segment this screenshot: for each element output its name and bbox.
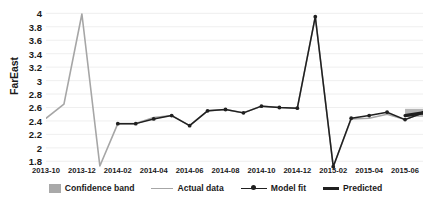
y-axis-title: FarEast bbox=[8, 41, 20, 111]
x-axis-tick: 2015-06 bbox=[391, 166, 419, 175]
chart-legend: Confidence band Actual data Model fit Pr… bbox=[0, 183, 431, 193]
data-point-marker bbox=[313, 15, 317, 19]
legend-item-predicted[interactable]: Predicted bbox=[323, 183, 382, 193]
data-point-marker bbox=[188, 124, 192, 128]
plot-area bbox=[46, 10, 423, 168]
y-axis-tick: 2 bbox=[37, 142, 42, 153]
x-axis-tick: 2014-04 bbox=[140, 166, 168, 175]
legend-item-model-fit[interactable]: Model fit bbox=[241, 183, 306, 193]
predicted-line-icon bbox=[323, 187, 339, 190]
y-axis-tick: 3.8 bbox=[29, 21, 42, 32]
model-fit-line-marker-icon bbox=[241, 184, 267, 193]
data-point-marker bbox=[349, 116, 353, 120]
x-axis-tick: 2013-12 bbox=[68, 166, 96, 175]
confidence-band-swatch-icon bbox=[49, 184, 61, 193]
y-axis-tick: 4 bbox=[37, 8, 42, 19]
y-axis-tick: 2.4 bbox=[29, 115, 42, 126]
legend-item-actual-data[interactable]: Actual data bbox=[151, 183, 223, 193]
x-axis-tick: 2014-10 bbox=[247, 166, 275, 175]
legend-label: Predicted bbox=[343, 183, 382, 193]
data-point-marker bbox=[224, 108, 228, 112]
gridlines bbox=[46, 13, 423, 161]
x-axis-tick: 2014-12 bbox=[283, 166, 311, 175]
actual-data-line-icon bbox=[151, 188, 173, 189]
series-line-actual-data bbox=[46, 14, 423, 167]
data-point-marker bbox=[260, 104, 264, 108]
x-axis-tick: 2015-02 bbox=[319, 166, 347, 175]
data-point-marker bbox=[152, 117, 156, 121]
series-line-model-fit bbox=[118, 17, 423, 167]
legend-label: Actual data bbox=[177, 183, 223, 193]
data-point-marker bbox=[295, 106, 299, 110]
data-point-marker bbox=[403, 118, 407, 122]
x-axis-tick: 2014-08 bbox=[212, 166, 240, 175]
y-axis-tick: 3 bbox=[37, 75, 42, 86]
y-axis-tick: 2.2 bbox=[29, 129, 42, 140]
data-point-marker bbox=[206, 109, 210, 113]
x-axis-tick: 2014-02 bbox=[104, 166, 132, 175]
data-point-marker bbox=[385, 110, 389, 114]
y-axis-tick: 2.8 bbox=[29, 89, 42, 100]
x-axis-tick: 2013-10 bbox=[32, 166, 60, 175]
legend-label: Model fit bbox=[271, 183, 306, 193]
data-point-marker bbox=[277, 106, 281, 110]
data-point-marker bbox=[170, 114, 174, 118]
data-point-marker bbox=[116, 122, 120, 126]
legend-label: Confidence band bbox=[65, 183, 135, 193]
y-axis-tick: 2.6 bbox=[29, 102, 42, 113]
y-axis-tick: 3.4 bbox=[29, 48, 42, 59]
chart-svg bbox=[46, 10, 423, 168]
x-axis-tick: 2015-04 bbox=[355, 166, 383, 175]
y-axis-tick: 3.6 bbox=[29, 35, 42, 46]
data-point-marker bbox=[242, 111, 246, 115]
data-point-marker bbox=[134, 122, 138, 126]
data-point-marker bbox=[367, 114, 371, 118]
x-axis-tick: 2014-06 bbox=[176, 166, 204, 175]
y-axis-tick: 3.2 bbox=[29, 62, 42, 73]
chart-container: FarEast 1.822.22.42.62.833.23.43.63.84 2… bbox=[0, 0, 431, 205]
legend-item-confidence-band[interactable]: Confidence band bbox=[49, 183, 135, 193]
